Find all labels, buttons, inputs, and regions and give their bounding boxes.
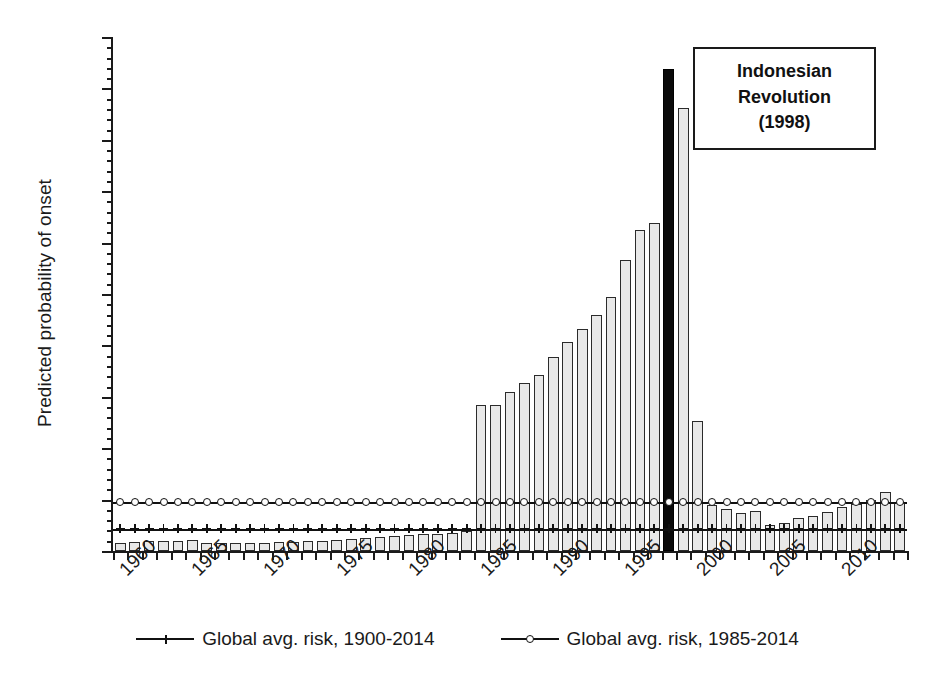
plus-marker-icon bbox=[275, 524, 284, 533]
plus-marker-icon bbox=[116, 524, 125, 533]
x-axis-tick bbox=[257, 551, 259, 560]
plus-marker-icon bbox=[318, 524, 327, 533]
plus-marker-icon bbox=[246, 524, 255, 533]
bar bbox=[577, 329, 588, 551]
circle-marker-icon bbox=[535, 498, 543, 506]
circle-marker-icon bbox=[405, 498, 413, 506]
y-axis-tick-major bbox=[102, 243, 113, 245]
bar bbox=[187, 540, 198, 551]
plus-marker-icon bbox=[895, 524, 904, 533]
plus-marker-icon bbox=[794, 524, 803, 533]
plus-marker-icon bbox=[448, 524, 457, 533]
circle-marker-icon bbox=[333, 498, 341, 506]
plus-marker-icon bbox=[809, 524, 818, 533]
circle-marker-icon bbox=[766, 498, 774, 506]
plus-marker-icon bbox=[607, 524, 616, 533]
circle-marker-icon bbox=[650, 498, 658, 506]
plus-marker-icon bbox=[433, 524, 442, 533]
plus-marker-icon bbox=[592, 524, 601, 533]
plus-marker-icon bbox=[188, 524, 197, 533]
plus-marker-icon bbox=[289, 524, 298, 533]
plus-marker-icon bbox=[621, 524, 630, 533]
y-axis-tick-major bbox=[102, 191, 113, 193]
circle-marker-icon bbox=[275, 498, 283, 506]
plus-marker-icon bbox=[376, 524, 385, 533]
x-axis-tick bbox=[907, 551, 909, 560]
circle-marker-icon bbox=[261, 498, 269, 506]
circle-marker-icon bbox=[881, 498, 889, 506]
x-axis-tick bbox=[402, 551, 404, 560]
bar bbox=[678, 108, 689, 551]
y-axis-tick-minor bbox=[107, 273, 113, 275]
circle-marker-icon bbox=[188, 498, 196, 506]
chart-container: Predicted probability of onset 0.100.090… bbox=[0, 0, 935, 674]
y-axis-tick-minor bbox=[107, 489, 113, 491]
y-axis-tick-major bbox=[102, 448, 113, 450]
x-axis-tick bbox=[459, 551, 461, 560]
y-axis-tick-minor bbox=[107, 47, 113, 49]
y-axis-tick-minor bbox=[107, 366, 113, 368]
circle-marker-icon bbox=[492, 498, 500, 506]
x-axis-tick bbox=[835, 551, 837, 560]
bar bbox=[620, 260, 631, 551]
circle-marker-icon bbox=[448, 498, 456, 506]
y-axis-title: Predicted probability of onset bbox=[34, 68, 56, 538]
circle-marker-icon bbox=[723, 498, 731, 506]
y-axis-tick-minor bbox=[107, 171, 113, 173]
bar bbox=[606, 297, 617, 551]
y-axis-tick-minor bbox=[107, 284, 113, 286]
plus-marker-icon bbox=[202, 524, 211, 533]
x-axis-tick bbox=[676, 551, 678, 560]
bar bbox=[389, 536, 400, 551]
circle-marker-icon bbox=[607, 498, 615, 506]
x-axis-tick bbox=[387, 551, 389, 560]
plus-marker-icon bbox=[462, 524, 471, 533]
y-axis-tick-major bbox=[102, 140, 113, 142]
bar bbox=[173, 541, 184, 551]
legend-swatch bbox=[136, 633, 194, 645]
bar-highlight-1998 bbox=[663, 69, 674, 551]
circle-marker-icon bbox=[246, 498, 254, 506]
plus-marker-icon bbox=[578, 524, 587, 533]
plus-marker-icon bbox=[549, 524, 558, 533]
circle-marker-icon bbox=[376, 498, 384, 506]
x-axis-tick bbox=[546, 551, 548, 560]
annotation-line-2: Revolution bbox=[701, 85, 868, 111]
plus-marker-icon bbox=[751, 524, 760, 533]
bar bbox=[591, 315, 602, 551]
circle-marker-icon bbox=[131, 498, 139, 506]
bar bbox=[548, 357, 559, 551]
y-axis-tick-minor bbox=[107, 201, 113, 203]
y-axis-tick-minor bbox=[107, 356, 113, 358]
plus-marker-icon bbox=[693, 524, 702, 533]
plus-marker-icon bbox=[347, 524, 356, 533]
bar bbox=[461, 531, 472, 551]
x-axis-tick bbox=[171, 551, 173, 560]
circle-marker-icon bbox=[636, 498, 644, 506]
legend-item-2[interactable]: Global avg. risk, 1985-2014 bbox=[501, 628, 799, 650]
circle-marker-icon bbox=[694, 498, 702, 506]
circle-marker-icon bbox=[665, 498, 673, 506]
circle-marker-icon bbox=[419, 498, 427, 506]
y-axis-tick-minor bbox=[107, 99, 113, 101]
circle-marker-icon bbox=[347, 498, 355, 506]
circle-marker-icon bbox=[116, 498, 124, 506]
y-axis-tick-minor bbox=[107, 479, 113, 481]
circle-marker-icon bbox=[593, 498, 601, 506]
y-axis-tick-minor bbox=[107, 160, 113, 162]
bar bbox=[447, 533, 458, 552]
x-axis-tick bbox=[315, 551, 317, 560]
circle-marker-icon bbox=[795, 498, 803, 506]
circle-marker-icon bbox=[679, 498, 687, 506]
legend-item-1[interactable]: Global avg. risk, 1900-2014 bbox=[136, 628, 434, 650]
plus-marker-icon bbox=[765, 524, 774, 533]
plus-marker-icon bbox=[145, 524, 154, 533]
plus-marker-icon bbox=[534, 524, 543, 533]
circle-marker-icon bbox=[477, 498, 485, 506]
plus-marker-icon bbox=[173, 524, 182, 533]
y-axis-tick-minor bbox=[107, 510, 113, 512]
y-axis-tick-major bbox=[102, 551, 113, 553]
circle-marker-icon bbox=[824, 498, 832, 506]
y-axis-tick-minor bbox=[107, 335, 113, 337]
y-axis-tick-minor bbox=[107, 78, 113, 80]
